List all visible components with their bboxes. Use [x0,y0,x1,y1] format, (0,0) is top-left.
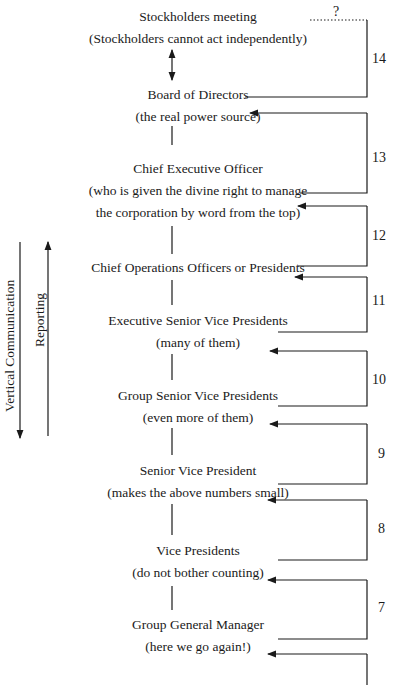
bracket-label-10: 10 [372,372,386,388]
bracket-label-14: 14 [372,51,386,67]
node-ggm: Group General Manager (here we go again!… [60,614,336,658]
node-note: (many of them) [60,332,336,354]
node-title: Senior Vice President [60,460,336,482]
vertical-communication-label: Vertical Communication [2,280,18,412]
node-title: Stockholders meeting [60,6,336,28]
node-note: (here we go again!) [60,636,336,658]
node-ceo: Chief Executive Officer (who is given th… [60,158,336,224]
reporting-label: Reporting [32,293,48,347]
node-exec-svp: Executive Senior Vice Presidents (many o… [60,310,336,354]
node-group-svp: Group Senior Vice Presidents (even more … [60,385,336,429]
node-vp: Vice Presidents (do not bother counting) [60,540,336,584]
node-note: (even more of them) [60,407,336,429]
node-coo: Chief Operations Officers or Presidents [60,257,336,279]
node-title: Board of Directors [60,84,336,106]
node-note: (who is given the divine right to manage [60,180,336,202]
node-note: (makes the above numbers small) [60,482,336,504]
node-title: Group General Manager [60,614,336,636]
node-note: (the real power source) [60,106,336,128]
bracket-label-7: 7 [378,600,385,616]
node-title: Chief Operations Officers or Presidents [60,257,336,279]
node-title: Group Senior Vice Presidents [60,385,336,407]
node-note: (do not bother counting) [60,562,336,584]
node-svp: Senior Vice President (makes the above n… [60,460,336,504]
node-board: Board of Directors (the real power sourc… [60,84,336,128]
node-title: Chief Executive Officer [60,158,336,180]
bracket-label-8: 8 [378,521,385,537]
bracket-label-12: 12 [372,228,386,244]
node-note: (Stockholders cannot act independently) [60,28,336,50]
node-title: Executive Senior Vice Presidents [60,310,336,332]
node-title: Vice Presidents [60,540,336,562]
bracket-label-9: 9 [378,446,385,462]
bracket-label-11: 11 [372,293,385,309]
bracket-label-13: 13 [372,150,386,166]
node-stockholders: Stockholders meeting (Stockholders canno… [60,6,336,50]
node-note-2: the corporation by word from the top) [60,202,336,224]
